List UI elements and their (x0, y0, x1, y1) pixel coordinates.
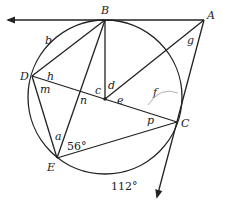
tangent-line-ac (157, 20, 204, 197)
angle-label-e: e (117, 94, 124, 107)
angle-label-d: d (108, 79, 115, 92)
angle-label-f: f (152, 86, 159, 99)
angle-value-56: 56° (67, 140, 87, 153)
point-label-c: C (181, 117, 190, 130)
angle-label-p: p (147, 114, 154, 127)
arc-value-112: 112° (111, 180, 138, 193)
circle-geometry-diagram: B A D C E b h m c d n e g f p a 56° 112° (0, 0, 226, 207)
point-label-e: E (46, 161, 55, 174)
angle-label-g: g (187, 34, 194, 47)
chord-bd (32, 20, 105, 76)
angle-label-m: m (40, 83, 50, 96)
center-point (103, 97, 107, 101)
point-label-d: D (19, 70, 29, 83)
angle-label-n: n (80, 94, 87, 107)
angle-label-h: h (47, 70, 54, 83)
angle-label-b: b (45, 34, 52, 47)
point-label-b: B (100, 4, 109, 17)
angle-label-a: a (55, 130, 62, 143)
angle-label-c: c (95, 84, 101, 97)
point-label-a: A (206, 9, 215, 22)
